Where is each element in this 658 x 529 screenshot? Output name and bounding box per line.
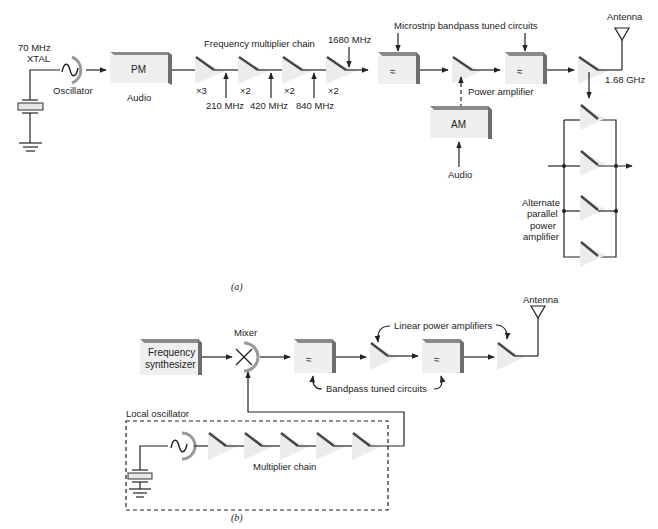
multiplier-output-freq: 840 MHz bbox=[296, 100, 334, 111]
lo-multiplier-chain bbox=[208, 433, 404, 460]
multiplier-output-freq: 420 MHz bbox=[250, 100, 288, 111]
linear-pa-label: Linear power amplifiers bbox=[394, 320, 492, 331]
bandpass-filter-1: ≈ bbox=[378, 52, 420, 84]
diagram-a: 70 MHz XTAL Oscillator PM Audio bbox=[18, 11, 645, 293]
oscillator-icon bbox=[62, 57, 81, 83]
am-modulator-box: AM bbox=[430, 106, 492, 139]
multiplier-factor: ×2 bbox=[284, 85, 295, 96]
mixer-icon bbox=[236, 343, 258, 371]
multiplier-x2-1: ×2 420 MHz bbox=[238, 57, 288, 111]
crystal-icon bbox=[18, 70, 60, 143]
am-label: AM bbox=[451, 119, 466, 130]
filter-symbol: ≈ bbox=[434, 354, 440, 365]
antenna-icon bbox=[531, 306, 545, 318]
multiplier-output-freq: 210 MHz bbox=[206, 100, 244, 111]
frequency-synthesizer-box: Frequency synthesizer bbox=[140, 339, 202, 375]
crystal-type-label: XTAL bbox=[27, 53, 50, 64]
power-amplifier-label: Power amplifier bbox=[468, 86, 533, 97]
antenna-icon bbox=[615, 28, 629, 40]
linear-power-amplifier-1 bbox=[370, 343, 418, 370]
ground-icon bbox=[19, 143, 42, 151]
pm-audio-label: Audio bbox=[127, 92, 151, 103]
filter-symbol: ≈ bbox=[306, 354, 312, 365]
multiplier-factor: ×2 bbox=[240, 85, 251, 96]
lo-crystal-icon bbox=[128, 446, 168, 489]
synth-label-line2: synthesizer bbox=[145, 359, 196, 370]
bandpass-filter-b2: ≈ bbox=[422, 339, 464, 373]
bandpass-filter-b1: ≈ bbox=[294, 339, 336, 373]
parallel-label-line3: power bbox=[530, 220, 556, 231]
output-frequency-label: 1.68 GHz bbox=[605, 74, 645, 85]
multiplier-x3: ×3 210 MHz bbox=[195, 57, 244, 111]
linear-power-amplifier-2 bbox=[497, 318, 538, 370]
mixer-label: Mixer bbox=[234, 327, 257, 338]
synth-label-line1: Frequency bbox=[148, 347, 195, 358]
multiplier-x2-3: ×2 1680 MHz bbox=[326, 34, 372, 96]
local-oscillator-label: Local oscillator bbox=[126, 408, 189, 419]
oscillator-label: Oscillator bbox=[53, 85, 93, 96]
lo-multiplier-chain-label: Multiplier chain bbox=[253, 461, 316, 472]
am-audio-label: Audio bbox=[448, 169, 472, 180]
parallel-label-line4: amplifier bbox=[523, 231, 559, 242]
multiplier-factor: ×3 bbox=[196, 85, 207, 96]
bandpass-label: Bandpass tuned circuits bbox=[326, 383, 427, 394]
transmitter-block-diagrams: 70 MHz XTAL Oscillator PM Audio bbox=[0, 0, 658, 529]
lo-oscillator-icon bbox=[171, 433, 195, 459]
lo-ground-icon bbox=[129, 489, 151, 497]
parallel-label-line1: Alternate bbox=[522, 197, 560, 208]
crystal-freq-label: 70 MHz bbox=[18, 42, 51, 53]
caption-a: (a) bbox=[231, 281, 243, 293]
pm-label: PM bbox=[131, 64, 146, 75]
multiplier-chain-label: Frequency multiplier chain bbox=[204, 38, 315, 49]
multiplier-factor: ×2 bbox=[328, 85, 339, 96]
antenna-label-b: Antenna bbox=[523, 294, 559, 305]
filter-symbol: ≈ bbox=[517, 66, 523, 77]
pm-modulator-box: PM bbox=[110, 52, 172, 85]
antenna-label: Antenna bbox=[607, 11, 643, 22]
bandpass-filter-2: ≈ bbox=[505, 52, 547, 84]
parallel-power-amplifier bbox=[548, 105, 632, 267]
parallel-label-line2: parallel bbox=[527, 208, 558, 219]
power-amplifier bbox=[452, 57, 500, 84]
multiplier-output-freq: 1680 MHz bbox=[328, 34, 372, 45]
diagram-b: Frequency synthesizer Mixer ≈ bbox=[126, 294, 559, 524]
filters-label: Microstrip bandpass tuned circuits bbox=[394, 20, 538, 31]
caption-b: (b) bbox=[231, 512, 243, 524]
filter-symbol: ≈ bbox=[390, 66, 396, 77]
